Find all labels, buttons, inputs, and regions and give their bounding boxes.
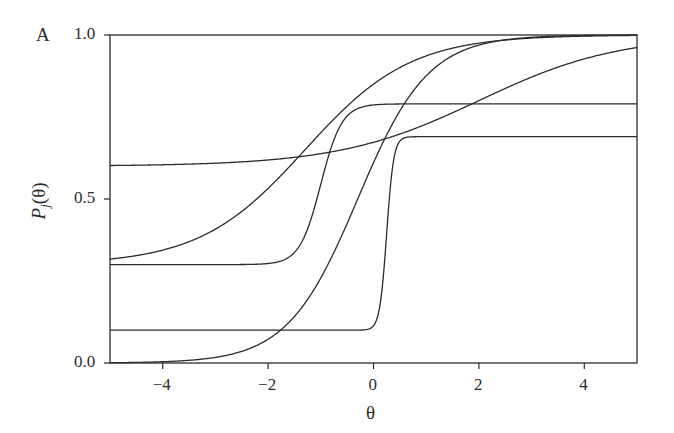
x-tick-label: 4 (579, 375, 588, 395)
y-tick-label: 1.0 (74, 24, 95, 44)
y-axis-ticks (104, 35, 110, 363)
x-tick-label: 2 (474, 375, 483, 395)
x-tick-label: 0 (369, 375, 378, 395)
y-tick-label: 0.0 (74, 352, 95, 372)
irf-curve (110, 104, 637, 265)
panel-label: A (36, 24, 50, 46)
irf-curve (110, 35, 637, 259)
chart-canvas (0, 0, 674, 433)
x-axis-ticks (163, 363, 585, 369)
irf-curve (110, 137, 637, 331)
x-tick-label: −2 (258, 375, 276, 395)
item-response-curves (110, 35, 637, 363)
irf-curve (110, 48, 637, 166)
x-tick-label: −4 (153, 375, 171, 395)
x-axis-label: θ (366, 402, 375, 424)
y-tick-label: 0.5 (74, 188, 95, 208)
y-axis-label: Pj(θ) (28, 182, 54, 219)
